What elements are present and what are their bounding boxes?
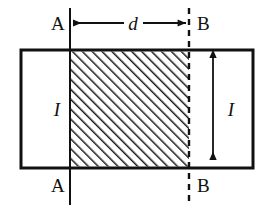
hatched-region: [70, 52, 189, 167]
label-right-height-i: I: [227, 99, 236, 120]
label-width-d: d: [128, 13, 138, 34]
label-top-right-b: B: [197, 13, 210, 34]
label-top-left-a: A: [51, 13, 65, 34]
figure-container: A B A B d I I: [0, 0, 269, 213]
label-bottom-left-a: A: [51, 175, 65, 196]
diagram-canvas: A B A B d I I: [0, 0, 269, 213]
label-left-height-i: I: [53, 99, 62, 120]
label-bottom-right-b: B: [197, 175, 210, 196]
